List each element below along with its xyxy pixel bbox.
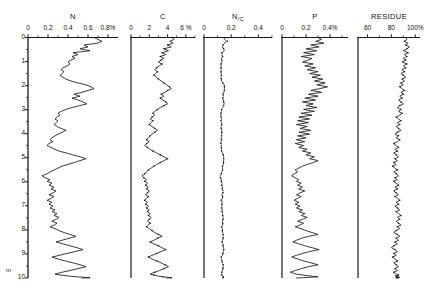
data-series-C xyxy=(142,38,174,279)
depth-tick-label-2: 2 xyxy=(6,81,25,88)
depth-tick-label-8: 8 xyxy=(6,225,25,232)
data-series-RESIDUE xyxy=(391,38,409,279)
depth-tick-label-10: 10 xyxy=(6,273,25,280)
depth-tick-label-4: 4 xyxy=(6,129,25,136)
data-series-P xyxy=(290,38,327,279)
panel-title-N: N xyxy=(28,12,118,21)
panel-title-RESIDUE: RESIDUE xyxy=(344,12,425,21)
tick-label-RESIDUE-2: 100% xyxy=(398,24,425,31)
depth-profile-figure: 012345678910m00.20.40.60.8%N0246 %C00.20… xyxy=(0,0,425,287)
depth-unit-label: m xyxy=(6,267,11,273)
data-series-N xyxy=(42,38,102,279)
plot-canvas xyxy=(0,0,425,287)
depth-tick-label-6: 6 xyxy=(6,177,25,184)
depth-tick-label-9: 9 xyxy=(6,249,25,256)
depth-tick-label-7: 7 xyxy=(6,201,25,208)
depth-tick-label-5: 5 xyxy=(6,153,25,160)
depth-tick-label-1: 1 xyxy=(6,57,25,64)
depth-tick-label-3: 3 xyxy=(6,105,25,112)
data-series-N-C xyxy=(220,38,227,279)
tick-label-P-2: 0.4% xyxy=(313,24,347,31)
depth-tick-label-0: 0 xyxy=(6,33,25,40)
